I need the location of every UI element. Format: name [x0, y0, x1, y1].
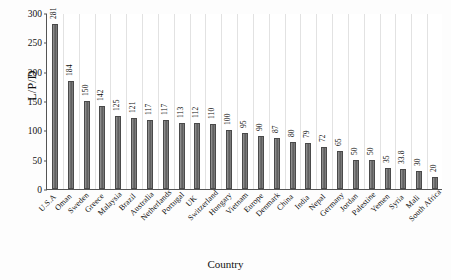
- bar: [337, 151, 343, 189]
- bar: [99, 106, 105, 189]
- bar: [210, 124, 216, 189]
- bar-slot: 20: [427, 14, 443, 189]
- bar: [274, 138, 280, 189]
- bar: [84, 101, 90, 189]
- bar-slot: 72: [316, 14, 332, 189]
- y-tick-mark: [44, 190, 47, 191]
- bar-value-label: 184: [65, 65, 74, 77]
- bar-value-label: 281: [49, 8, 58, 20]
- bar-value-label: 72: [318, 134, 327, 142]
- bar-value-label: 50: [350, 147, 359, 155]
- bar-value-label: 80: [287, 129, 296, 137]
- bar: [131, 118, 137, 189]
- bar-slot: 184: [63, 14, 79, 189]
- x-axis-title: Country: [0, 258, 451, 270]
- bar-slot: 90: [253, 14, 269, 189]
- bar-slot: 79: [300, 14, 316, 189]
- bar-slot: 121: [126, 14, 142, 189]
- bar-slot: 125: [110, 14, 126, 189]
- bar: [258, 136, 264, 189]
- bar: [305, 143, 311, 189]
- bar-value-label: 79: [302, 130, 311, 138]
- bar-value-label: 65: [334, 138, 343, 146]
- bar-value-label: 125: [112, 99, 121, 111]
- bar-value-label: 87: [271, 125, 280, 133]
- bar: [68, 81, 74, 189]
- bar-value-label: 110: [207, 108, 216, 119]
- plot-area: 050100150200250300 281184150142125121117…: [46, 14, 442, 190]
- bar: [226, 130, 232, 189]
- bar-value-label: 50: [366, 147, 375, 155]
- bar: [416, 171, 422, 189]
- bar: [321, 147, 327, 189]
- bar: [290, 142, 296, 189]
- bar-value-label: 33.8: [397, 151, 406, 165]
- bar-slot: 30: [411, 14, 427, 189]
- bar-slot: 33.8: [395, 14, 411, 189]
- bar-slot: 117: [142, 14, 158, 189]
- x-category-label-text: India: [293, 193, 311, 211]
- x-category-label-text: Syria: [387, 193, 406, 212]
- bar-slot: 50: [348, 14, 364, 189]
- bar-value-label: 90: [255, 124, 264, 132]
- bar: [163, 120, 169, 189]
- bar-slot: 95: [237, 14, 253, 189]
- bar: [115, 116, 121, 189]
- bar: [194, 123, 200, 189]
- bar-series: 2811841501421251211171171131121101009590…: [47, 14, 442, 189]
- bar-value-label: 20: [429, 165, 438, 173]
- bar-value-label: 117: [144, 104, 153, 115]
- bar-slot: 80: [285, 14, 301, 189]
- x-category-label: Syria: [387, 193, 406, 212]
- bar: [242, 133, 248, 189]
- bar: [179, 123, 185, 189]
- bar-chart-figure: L/P/D 050100150200250300 281184150142125…: [0, 0, 451, 280]
- x-axis-category-labels: U.S.AOmanSwedenGreeceMalaysiaBrazilAustr…: [46, 192, 442, 254]
- bar-value-label: 117: [160, 104, 169, 115]
- bar-value-label: 30: [413, 159, 422, 167]
- bar-slot: 110: [205, 14, 221, 189]
- bar-slot: 117: [158, 14, 174, 189]
- bar: [369, 160, 375, 189]
- bar-slot: 50: [364, 14, 380, 189]
- bar-slot: 112: [190, 14, 206, 189]
- bar-value-label: 100: [223, 114, 232, 126]
- bar: [147, 120, 153, 189]
- bar-value-label: 35: [382, 156, 391, 164]
- bar-slot: 281: [47, 14, 63, 189]
- bar-value-label: 95: [239, 121, 248, 129]
- bar-value-label: 150: [81, 84, 90, 96]
- bar-slot: 87: [269, 14, 285, 189]
- bar-slot: 142: [95, 14, 111, 189]
- bar-slot: 150: [79, 14, 95, 189]
- bar-slot: 65: [332, 14, 348, 189]
- bar-value-label: 121: [128, 101, 137, 113]
- bar-value-label: 142: [96, 89, 105, 101]
- x-category-label: India: [293, 193, 311, 211]
- bar: [400, 169, 406, 189]
- bar: [353, 160, 359, 189]
- bar: [52, 24, 58, 189]
- bar-slot: 113: [174, 14, 190, 189]
- bar-value-label: 112: [191, 107, 200, 118]
- bar-slot: 35: [380, 14, 396, 189]
- bar: [385, 168, 391, 189]
- bar-value-label: 113: [176, 106, 185, 117]
- bar-slot: 100: [221, 14, 237, 189]
